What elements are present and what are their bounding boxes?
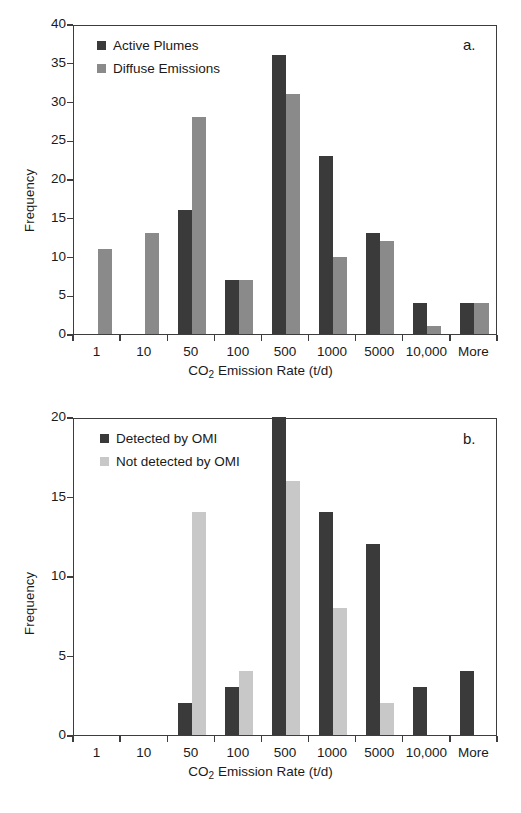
x-tick-mark xyxy=(355,736,356,742)
y-tick-label: 40 xyxy=(51,16,66,31)
x-tick-label: 500 xyxy=(274,344,297,359)
y-tick-label: 5 xyxy=(58,648,66,663)
chart-panel-b: Frequency 05101520 110501005001000500010… xyxy=(0,400,521,813)
y-axis-label-a: Frequency xyxy=(22,169,37,232)
figure-root: Frequency 0510152025303540 1105010050010… xyxy=(0,0,521,813)
legend-b: Detected by OMINot detected by OMI xyxy=(100,431,240,477)
legend-swatch-icon xyxy=(97,64,106,73)
y-tick-label: 25 xyxy=(51,132,66,147)
x-tick-label: 1000 xyxy=(317,344,347,359)
y-tick-label: 0 xyxy=(58,326,66,341)
bar xyxy=(239,280,253,334)
legend-swatch-icon xyxy=(100,434,109,443)
bar xyxy=(333,257,347,335)
bar xyxy=(319,156,333,334)
x-axis-title-a: CO2 Emission Rate (t/d) xyxy=(0,363,521,378)
legend-label: Diffuse Emissions xyxy=(113,61,220,76)
x-tick-label: 50 xyxy=(183,745,198,760)
y-tick-label: 10 xyxy=(51,568,66,583)
legend-label: Detected by OMI xyxy=(116,431,217,446)
panel-letter-b: b. xyxy=(463,430,476,447)
y-tick-label: 20 xyxy=(51,409,66,424)
y-axis-label-b: Frequency xyxy=(22,572,37,635)
bar xyxy=(319,512,333,735)
bar xyxy=(98,249,112,334)
x-tick-mark xyxy=(402,736,403,742)
bar xyxy=(333,608,347,735)
x-tick-mark xyxy=(449,335,450,341)
legend-item: Active Plumes xyxy=(97,38,220,53)
x-tick-mark xyxy=(308,335,309,341)
y-tick-label: 10 xyxy=(51,249,66,264)
x-tick-mark xyxy=(308,736,309,742)
y-tick-label: 0 xyxy=(58,727,66,742)
x-tick-mark xyxy=(214,335,215,341)
bar xyxy=(366,233,380,334)
x-tick-label: 1 xyxy=(93,745,101,760)
x-tick-mark xyxy=(167,335,168,341)
x-tick-label: More xyxy=(458,745,489,760)
x-tick-mark xyxy=(72,335,73,341)
x-tick-mark xyxy=(214,736,215,742)
legend-label: Active Plumes xyxy=(113,38,199,53)
y-tick-label: 35 xyxy=(51,55,66,70)
y-tick-label: 5 xyxy=(58,287,66,302)
legend-item: Not detected by OMI xyxy=(100,454,240,469)
legend-label: Not detected by OMI xyxy=(116,454,240,469)
x-tick-mark xyxy=(167,736,168,742)
bar xyxy=(192,117,206,334)
bar xyxy=(380,703,394,735)
legend-item: Diffuse Emissions xyxy=(97,61,220,76)
bar xyxy=(239,671,253,735)
bar xyxy=(286,94,300,334)
bar xyxy=(380,241,394,334)
bar xyxy=(192,512,206,735)
legend-swatch-icon xyxy=(97,41,106,50)
bar xyxy=(272,417,286,735)
x-axis-title-b: CO2 Emission Rate (t/d) xyxy=(0,764,521,779)
bar xyxy=(427,326,441,334)
bar xyxy=(460,671,474,735)
bar xyxy=(145,233,159,334)
bar xyxy=(413,687,427,735)
x-tick-label: 10,000 xyxy=(406,344,447,359)
x-tick-mark xyxy=(496,736,497,742)
x-tick-label: 5000 xyxy=(364,745,394,760)
x-tick-label: 500 xyxy=(274,745,297,760)
bar xyxy=(225,280,239,334)
x-tick-mark xyxy=(72,736,73,742)
x-tick-label: 10 xyxy=(136,344,151,359)
bar xyxy=(460,303,474,334)
x-tick-mark xyxy=(261,736,262,742)
x-tick-mark xyxy=(261,335,262,341)
x-tick-label: 1 xyxy=(93,344,101,359)
x-tick-mark xyxy=(119,335,120,341)
chart-panel-a: Frequency 0510152025303540 1105010050010… xyxy=(0,0,521,400)
x-tick-mark xyxy=(119,736,120,742)
legend-swatch-icon xyxy=(100,457,109,466)
bar xyxy=(474,303,488,334)
x-tick-label: 10 xyxy=(136,745,151,760)
bar xyxy=(413,303,427,334)
x-tick-label: More xyxy=(458,344,489,359)
x-tick-mark xyxy=(496,335,497,341)
bar xyxy=(178,703,192,735)
bar xyxy=(178,210,192,334)
x-tick-mark xyxy=(355,335,356,341)
x-tick-label: 5000 xyxy=(364,344,394,359)
x-tick-mark xyxy=(449,736,450,742)
x-tick-label: 10,000 xyxy=(406,745,447,760)
panel-letter-a: a. xyxy=(463,36,476,53)
legend-a: Active PlumesDiffuse Emissions xyxy=(97,38,220,84)
bar xyxy=(225,687,239,735)
x-tick-label: 100 xyxy=(227,344,250,359)
y-tick-label: 20 xyxy=(51,171,66,186)
bar xyxy=(366,544,380,735)
y-tick-label: 15 xyxy=(51,210,66,225)
x-tick-label: 100 xyxy=(227,745,250,760)
x-tick-label: 50 xyxy=(183,344,198,359)
x-tick-label: 1000 xyxy=(317,745,347,760)
bar xyxy=(272,55,286,334)
y-tick-label: 30 xyxy=(51,94,66,109)
x-tick-mark xyxy=(402,335,403,341)
